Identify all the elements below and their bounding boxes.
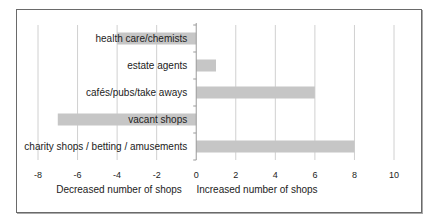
bar-4 bbox=[196, 141, 354, 153]
x-tick-label: -4 bbox=[113, 170, 121, 180]
x-tick-label: 6 bbox=[312, 170, 317, 180]
x-tick-label: -8 bbox=[34, 170, 42, 180]
category-label: charity shops / betting / amusements bbox=[24, 141, 187, 152]
x-axis-label-increased: Increased number of shops bbox=[196, 184, 317, 195]
category-label: health care/chemists bbox=[96, 33, 188, 44]
bar-2 bbox=[196, 87, 315, 99]
bar-1 bbox=[196, 60, 216, 72]
category-label: cafés/pubs/take aways bbox=[86, 87, 187, 98]
x-tick-label: 0 bbox=[194, 170, 199, 180]
x-tick-label: -2 bbox=[153, 170, 161, 180]
x-tick-label: 4 bbox=[273, 170, 278, 180]
x-axis-label-decreased: Decreased number of shops bbox=[56, 184, 182, 195]
x-tick-label: 10 bbox=[389, 170, 399, 180]
bar-chart: health care/chemistsestate agentscafés/p… bbox=[0, 0, 436, 224]
x-tick-label: 2 bbox=[233, 170, 238, 180]
x-tick-label: -6 bbox=[74, 170, 82, 180]
category-label: vacant shops bbox=[128, 114, 187, 125]
x-tick-label: 8 bbox=[352, 170, 357, 180]
category-label: estate agents bbox=[127, 60, 187, 71]
